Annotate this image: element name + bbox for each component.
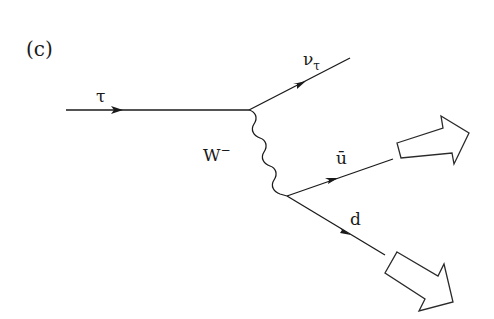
feynman-diagram: (c) τ ντ W− ū d [0, 0, 494, 319]
jet-arrow-upper-icon [397, 116, 469, 164]
neutrino-line [249, 58, 350, 110]
w-boson-wavy-line [249, 110, 287, 196]
neutrino-label: ντ [303, 49, 320, 73]
neutrino-arrow-icon [293, 81, 306, 89]
quark-label: d [350, 209, 361, 229]
quark-line [287, 196, 385, 255]
antiquark-arrow-icon [325, 178, 338, 184]
antiquark-label: ū [336, 148, 347, 168]
tau-label: τ [96, 86, 105, 106]
jet-arrow-lower-icon [385, 252, 453, 311]
panel-label: (c) [26, 37, 53, 61]
w-boson-label: W− [203, 143, 231, 165]
tau-line [66, 106, 249, 114]
